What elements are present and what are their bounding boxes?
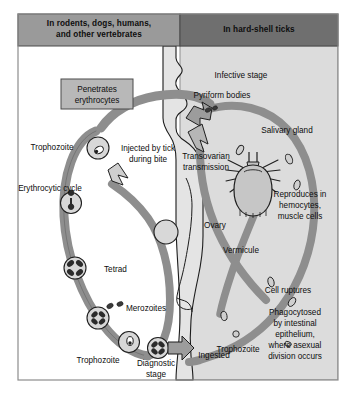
cell-trophozoite-top [87, 137, 109, 159]
label-injected-line1: Injected by tick [121, 144, 176, 153]
label-trophozoite-top: Trophozoite [31, 143, 74, 152]
life-cycle-diagram: In rodents, dogs, humans, and other vert… [0, 0, 352, 400]
cell-diagnostic-stage [148, 338, 169, 359]
label-diagnostic-line2: stage [146, 370, 166, 379]
cell-erythrocyte-plain [154, 220, 178, 244]
label-phagocytosed-line5: division occurs [268, 352, 322, 361]
label-reproduces-line3: muscle cells [278, 212, 323, 221]
label-diagnostic-line1: Diagnostic [137, 359, 175, 368]
label-vermicule: Vermicule [223, 246, 259, 255]
label-trophozoite-bottom: Trophozoite [77, 356, 120, 365]
banner-left-line2: and other vertebrates [56, 30, 142, 39]
label-salivary-gland: Salivary gland [261, 126, 313, 135]
label-transovarian-line1: Transovarian [182, 152, 230, 161]
label-ingested: Ingested [198, 351, 230, 360]
banner-left-line1: In rodents, dogs, humans, [47, 19, 151, 28]
cell-trophozoite-bottom [119, 332, 140, 353]
cell-tetrad [64, 257, 86, 279]
label-erythrocytic-cycle: Erythrocytic cycle [18, 184, 82, 193]
penetrates-line2: erythrocytes [75, 96, 120, 105]
label-phagocytosed-line3: epithelium, [275, 330, 315, 339]
label-phagocytosed-line1: Phagocytosed [269, 308, 321, 317]
label-tetrad: Tetrad [104, 265, 127, 274]
figure-canvas: In rodents, dogs, humans, and other vert… [0, 0, 352, 400]
label-phagocytosed-line4: where asexual [268, 341, 322, 350]
label-ovary: Ovary [204, 221, 227, 230]
label-transovarian-line2: transmission [183, 163, 229, 172]
penetrates-line1: Penetrates [77, 85, 117, 94]
label-phagocytosed-line2: by intestinal [273, 319, 316, 328]
label-pyriform-bodies: Pyriform bodies [194, 91, 251, 100]
label-reproduces-line1: Reproduces in [274, 190, 327, 199]
label-reproduces-line2: hemocytes, [279, 201, 321, 210]
label-injected-line2: during bite [129, 155, 168, 164]
label-infective-stage: Infective stage [215, 71, 268, 80]
label-merozoites: Merozoites [126, 304, 166, 313]
banner-right-label: In hard-shell ticks [223, 25, 295, 34]
label-cell-ruptures: Cell ruptures [265, 286, 311, 295]
